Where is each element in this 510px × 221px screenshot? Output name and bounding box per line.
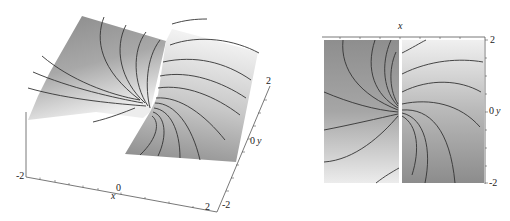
right-y-tick-0: 0 — [489, 106, 494, 116]
density-plot-graphic — [300, 0, 510, 221]
y-tick-0: 0 — [250, 136, 255, 146]
surface-plot-3d: -2 0 x 2 -2 0 y 2 — [0, 0, 290, 221]
right-y-tick-minus2: -2 — [489, 178, 497, 188]
x-tick-minus2: -2 — [16, 171, 24, 181]
right-y-axis-label: y — [496, 106, 500, 116]
y-axis-label: y — [257, 136, 261, 146]
x-axis-label: x — [111, 191, 115, 201]
right-x-axis-label-text: x — [398, 20, 402, 31]
y-axis-label-text: y — [257, 135, 261, 146]
y-tick-2: 2 — [266, 76, 271, 86]
surface-plot-graphic — [0, 0, 290, 221]
right-x-axis-label: x — [398, 21, 402, 31]
right-y-tick-2: 2 — [490, 35, 495, 45]
x-tick-2: 2 — [205, 202, 210, 212]
y-tick-minus2: -2 — [222, 200, 230, 210]
right-y-axis-label-text: y — [496, 105, 500, 116]
density-plot-top-view: x 2 0 y -2 — [300, 0, 510, 221]
x-tick-0: 0 — [116, 183, 121, 193]
x-axis-label-text: x — [111, 190, 115, 201]
